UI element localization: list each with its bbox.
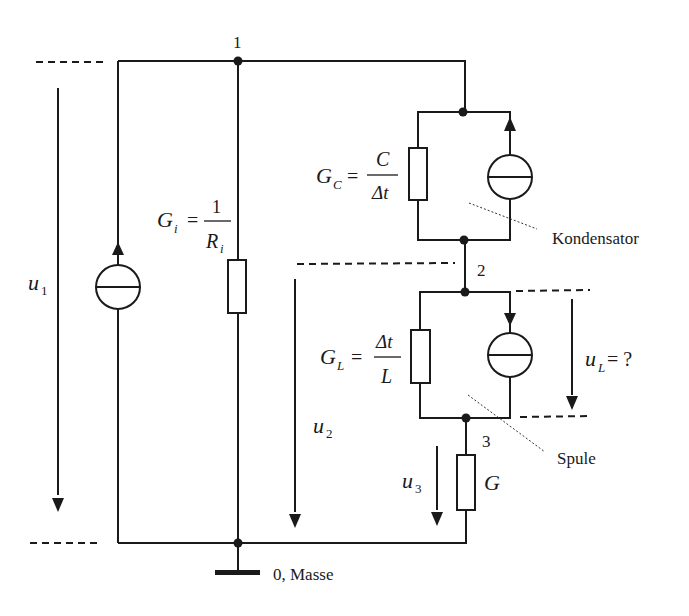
node-label-3: 3 xyxy=(482,432,491,451)
formula-gi: G i = 1 R i xyxy=(157,197,231,256)
formula-gc: G C = C Δt xyxy=(316,148,398,203)
arrow-down-icon xyxy=(566,396,578,410)
node-0-dot xyxy=(234,539,243,548)
svg-text:u: u xyxy=(28,270,39,295)
svg-text:i: i xyxy=(174,221,178,236)
label-u3: u 3 xyxy=(402,468,422,496)
voltage-arrow-u2 xyxy=(289,279,301,528)
svg-text:Δt: Δt xyxy=(371,182,389,203)
arrow-down-icon xyxy=(504,313,516,326)
svg-text:= ?: = ? xyxy=(607,348,632,370)
resistor-gc xyxy=(409,148,427,200)
formula-gl: G L = Δt L xyxy=(320,331,401,387)
node-cap-top-dot xyxy=(459,108,468,117)
voltage-arrow-u3 xyxy=(431,446,443,526)
current-source-main xyxy=(96,242,140,309)
ground-label: 0, Masse xyxy=(273,565,333,584)
svg-text:u: u xyxy=(313,413,324,438)
label-g: G xyxy=(484,470,500,495)
svg-text:u: u xyxy=(585,346,596,371)
arrow-up-icon xyxy=(112,242,124,255)
svg-text:G: G xyxy=(316,163,332,188)
annotation-kondensator: Kondensator xyxy=(552,229,639,248)
arrow-up-icon xyxy=(504,117,516,131)
label-ul: u L = ? xyxy=(585,346,632,375)
node-2-lower-dot xyxy=(461,288,470,297)
svg-text:R: R xyxy=(205,230,218,252)
svg-text:1: 1 xyxy=(41,283,48,298)
svg-text:=: = xyxy=(351,346,362,368)
svg-text:i: i xyxy=(220,241,224,256)
svg-text:u: u xyxy=(402,468,413,493)
annotation-spule: Spule xyxy=(557,449,596,468)
pointer-spule xyxy=(468,395,545,452)
svg-text:L: L xyxy=(336,358,344,373)
arrow-down-icon xyxy=(431,512,443,526)
svg-text:G: G xyxy=(157,207,173,232)
svg-text:L: L xyxy=(380,365,392,387)
node-label-2: 2 xyxy=(477,261,486,280)
resistor-ri xyxy=(228,260,246,313)
junction-nodes xyxy=(234,57,471,548)
svg-text:1: 1 xyxy=(212,197,221,217)
svg-text:3: 3 xyxy=(415,481,422,496)
voltage-arrow-ul xyxy=(566,299,578,410)
circuit-diagram: 1 2 3 0, Masse G i = 1 R i G C = C Δt G … xyxy=(0,0,689,616)
svg-text:Δt: Δt xyxy=(375,331,393,352)
svg-text:=: = xyxy=(187,209,198,231)
node-2-upper-dot xyxy=(460,236,469,245)
node-label-1: 1 xyxy=(233,33,242,52)
svg-text:C: C xyxy=(376,148,390,170)
wires xyxy=(118,61,510,572)
resistor-gl xyxy=(411,330,430,383)
svg-text:L: L xyxy=(597,360,605,375)
voltage-arrow-u1 xyxy=(52,88,64,512)
pointer-kondensator xyxy=(469,203,537,229)
node-1-dot xyxy=(234,57,243,66)
label-u1: u 1 xyxy=(28,270,48,298)
current-source-capacitor xyxy=(488,117,532,199)
svg-text:C: C xyxy=(333,177,342,192)
svg-text:2: 2 xyxy=(326,426,333,441)
svg-text:G: G xyxy=(320,344,336,369)
ground-symbol xyxy=(215,570,260,575)
label-u2: u 2 xyxy=(313,413,333,441)
arrow-down-icon xyxy=(289,514,301,528)
current-source-inductor xyxy=(488,313,532,377)
svg-text:=: = xyxy=(347,165,358,187)
resistor-g xyxy=(457,455,475,510)
arrow-down-icon xyxy=(52,498,64,512)
node-3-dot xyxy=(462,414,471,423)
